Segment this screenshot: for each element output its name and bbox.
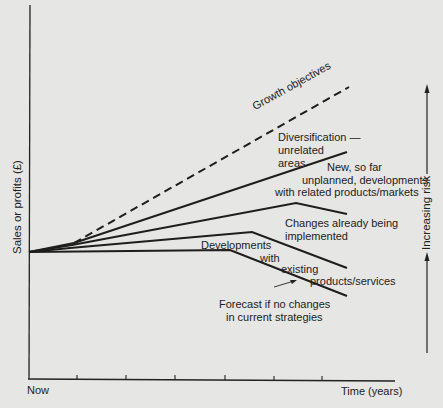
y-axis (29, 5, 30, 379)
new-dev-label-3: with related products/markets (275, 186, 419, 198)
new-dev-label-2: unplanned, developments (302, 174, 428, 186)
forecast-label-2: in current strategies (226, 311, 323, 323)
changes-label-1: Changes already being (285, 217, 398, 229)
forecast-pointer-head (290, 280, 297, 284)
y-axis-label: Sales or profits (£) (11, 160, 23, 254)
x-axis-label: Time (years) (341, 385, 402, 397)
forecast-label-1: Forecast if no changes (219, 298, 330, 310)
existing-dev-label-2: with (260, 252, 280, 264)
risk-arrow-head-mid (425, 252, 430, 261)
diversification-label-1: Diversification — (278, 131, 361, 143)
new-dev-label-1: New, so far (327, 161, 382, 173)
risk-label: Increasing risk (420, 176, 432, 250)
existing-dev-label-3: existing (281, 263, 318, 275)
x-start-label: Now (27, 384, 49, 396)
existing-dev-label-1: Developments (201, 239, 271, 251)
strategy-gap-diagram: Sales or profits (£) Now Time (years) In… (0, 0, 443, 408)
diversification-label-3: areas (278, 157, 306, 169)
changes-label-2: implemented (285, 230, 348, 242)
diagram-canvas (0, 0, 443, 408)
x-axis (28, 379, 395, 381)
diversification-label-2: unrelated (278, 144, 324, 156)
risk-arrow-head-top (425, 84, 430, 93)
existing-dev-label-4: products/services (310, 275, 396, 287)
